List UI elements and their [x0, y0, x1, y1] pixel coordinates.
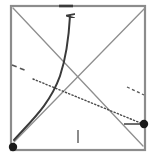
origin-marker: [9, 143, 17, 151]
right-edge-marker: [140, 120, 148, 128]
chart-container: [0, 0, 156, 162]
economics-line-chart: [0, 0, 156, 162]
